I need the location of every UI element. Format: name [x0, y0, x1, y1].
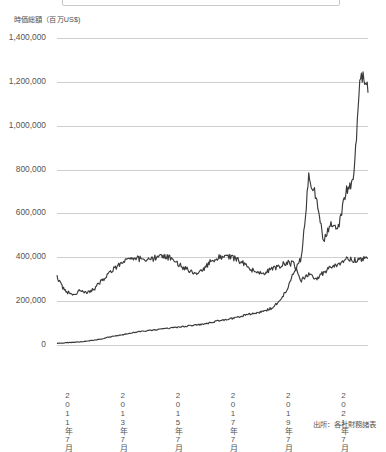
x-axis-tick-label: 2019年7月: [279, 390, 293, 452]
series-line-series-a: [57, 254, 368, 295]
y-axis-tick-label: 1,000,000: [0, 121, 46, 129]
x-axis-tick-label: 2011年7月: [58, 390, 72, 452]
plot-area: 1,400,0001,200,0001,000,000800,000600,00…: [57, 38, 368, 345]
y-axis-title: 時価総額（百万US$): [14, 14, 80, 24]
gridline: [57, 345, 368, 346]
x-axis-tick-label: 2013年7月: [113, 390, 127, 452]
legend-box: [62, 0, 340, 6]
y-axis-tick-label: 200,000: [0, 296, 46, 304]
x-axis-tick-label: 2015年7月: [168, 390, 182, 452]
y-axis-tick-label: 0: [0, 340, 46, 348]
y-axis-tick-label: 1,400,000: [0, 33, 46, 41]
source-note: 出所：各社財務諸表: [313, 418, 376, 429]
series-group: [57, 38, 368, 345]
x-axis-tick-label: 2017年7月: [224, 390, 238, 452]
y-axis-tick-label: 600,000: [0, 208, 46, 216]
y-axis-tick-label: 400,000: [0, 252, 46, 260]
series-line-series-b: [57, 72, 368, 343]
y-axis-tick-label: 800,000: [0, 165, 46, 173]
y-axis-tick-label: 1,200,000: [0, 77, 46, 85]
